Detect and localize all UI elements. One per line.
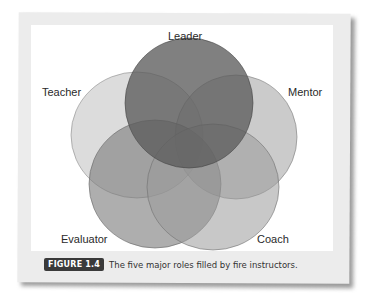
figure-number-badge: FIGURE 1.4	[44, 258, 104, 271]
label-teacher: Teacher	[42, 86, 81, 98]
figure-page: Leader Teacher Mentor Evaluator Coach FI…	[0, 0, 368, 301]
label-leader: Leader	[168, 30, 202, 42]
venn-diagram	[0, 0, 368, 301]
leader-circle	[125, 38, 253, 168]
label-coach: Coach	[257, 233, 289, 245]
label-evaluator: Evaluator	[61, 233, 107, 245]
figure-caption: FIGURE 1.4 The five major roles filled b…	[44, 258, 298, 271]
caption-text: The five major roles filled by fire inst…	[109, 260, 298, 270]
label-mentor: Mentor	[288, 86, 322, 98]
